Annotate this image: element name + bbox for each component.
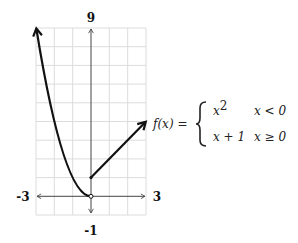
y-min-label: -1 (84, 224, 97, 238)
x-min-label: -3 (16, 190, 29, 204)
formula-lhs: f(x) = (152, 117, 187, 131)
brace (196, 102, 206, 146)
case-1-condition: x < 0 (254, 104, 286, 118)
x-max-label: 3 (153, 190, 161, 204)
case-2-expr: x + 1 (213, 130, 245, 144)
y-max-label: 9 (87, 11, 95, 25)
open-endpoint (89, 194, 93, 198)
case-1-expr: x2 (213, 99, 227, 118)
case-2-condition: x ≥ 0 (254, 130, 286, 144)
closed-endpoint (89, 176, 92, 179)
parabola-branch (37, 30, 92, 197)
piecewise-graph: 9 -1 -3 3 f(x) = x2 x < 0 x + 1 x ≥ 0 (0, 0, 298, 243)
piecewise-formula: f(x) = x2 x < 0 x + 1 x ≥ 0 (152, 99, 286, 146)
linear-branch (91, 123, 145, 178)
